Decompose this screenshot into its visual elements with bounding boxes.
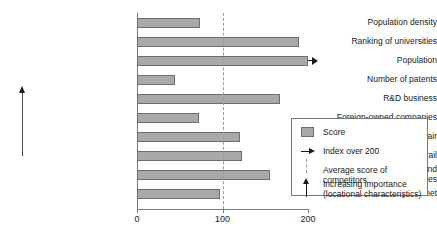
- index-over-200-arrow-stem: [308, 60, 313, 61]
- category-label: Population density: [312, 18, 437, 28]
- average-competitors-reference-line: [223, 13, 224, 209]
- bar-chart-figure: Population densityRanking of universitie…: [0, 0, 437, 240]
- bar: [137, 18, 200, 28]
- legend-label-increasing-importance: Increasing importance (locational charac…: [323, 179, 421, 199]
- x-axis-tick-label: 200: [300, 214, 315, 224]
- x-axis-tick: [223, 209, 224, 213]
- x-axis-tick: [137, 209, 138, 213]
- bar: [137, 170, 270, 180]
- x-axis-tick-label: 0: [134, 214, 139, 224]
- bar: [137, 94, 280, 104]
- bar-row: [0, 18, 200, 28]
- x-axis-tick-label: 100: [215, 214, 230, 224]
- bar: [137, 151, 242, 161]
- bar-row: [0, 189, 220, 199]
- bar-row: [0, 170, 270, 180]
- bar-row: [0, 94, 280, 104]
- bar: [137, 75, 175, 85]
- legend: Score Index over 200 Average score of co…: [291, 118, 428, 196]
- bar: [137, 189, 220, 199]
- bar: [137, 132, 240, 142]
- bar-row: [0, 37, 299, 47]
- legend-label-score: Score: [323, 127, 345, 137]
- legend-label-index-over-200: Index over 200: [323, 146, 379, 156]
- x-axis-tick: [308, 209, 309, 213]
- bar-row: [0, 113, 199, 123]
- bar-row: [0, 75, 175, 85]
- legend-score-swatch-icon: [301, 127, 314, 137]
- category-label: Ranking of universities: [312, 37, 437, 47]
- bar-row: [0, 151, 242, 161]
- category-label: R&D business: [312, 94, 437, 104]
- category-label: Number of patents: [312, 75, 437, 85]
- bar: [137, 37, 299, 47]
- bar-row: [0, 132, 240, 142]
- index-over-200-arrow-icon: [312, 57, 318, 65]
- bar: [137, 113, 199, 123]
- category-label: Population: [312, 56, 437, 66]
- bar-row: [0, 56, 308, 66]
